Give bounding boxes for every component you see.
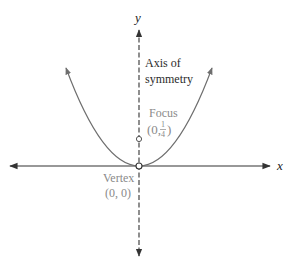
x-axis-label: x [276, 158, 283, 173]
focus-coord-close: ) [167, 122, 171, 137]
vertex-label: Vertex [103, 171, 134, 185]
axis-of-symmetry-label-line2: symmetry [145, 72, 193, 86]
focus-coord-denominator: 4 [161, 130, 165, 139]
axis-of-symmetry-label-line1: Axis of [145, 56, 181, 70]
vertex-coordinate: (0, 0) [105, 186, 131, 200]
y-axis-label: y [133, 10, 141, 25]
vertex-point [136, 163, 142, 169]
focus-label: Focus [149, 106, 178, 120]
focus-point [136, 136, 141, 141]
focus-coordinate: (0, 1 4 ) [147, 120, 171, 139]
focus-coord-numerator: 1 [161, 120, 165, 129]
parabola-diagram: x y Axis of symmetry Focus (0, 1 4 ) Ver… [0, 0, 285, 266]
focus-coord-open: (0, [147, 122, 161, 137]
